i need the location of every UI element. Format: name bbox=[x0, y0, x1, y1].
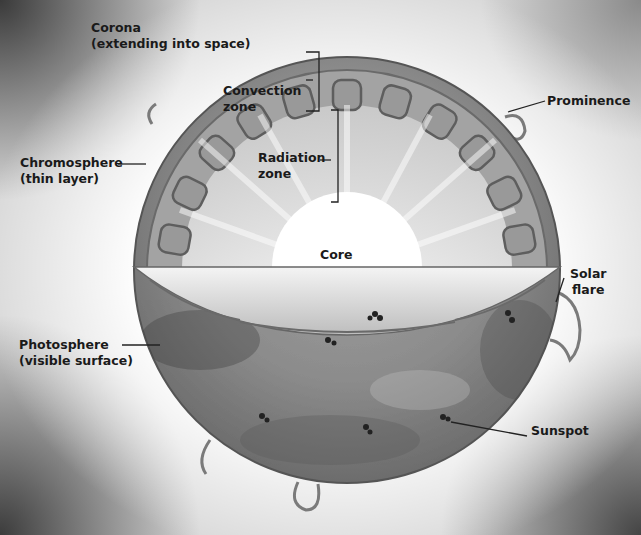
label-radiation-zone: Radiation zone bbox=[258, 150, 325, 182]
label-chromosphere: Chromosphere (thin layer) bbox=[20, 155, 123, 187]
label-sunspot: Sunspot bbox=[531, 423, 589, 439]
label-corona: Corona (extending into space) bbox=[91, 20, 251, 52]
label-solar-flare: Solar flare bbox=[570, 266, 606, 298]
sun-diagram: Corona (extending into space) Convection… bbox=[0, 0, 641, 535]
label-photosphere: Photosphere (visible surface) bbox=[19, 337, 133, 369]
prominence-leader bbox=[508, 101, 545, 112]
label-convection-zone: Convection zone bbox=[223, 83, 301, 115]
label-core: Core bbox=[320, 247, 352, 263]
label-prominence: Prominence bbox=[547, 93, 630, 109]
sun-illustration bbox=[0, 0, 641, 535]
